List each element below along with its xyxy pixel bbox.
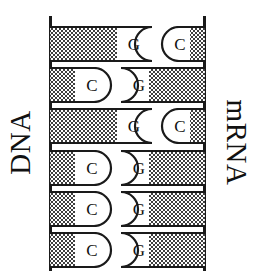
base-pair-row: GC bbox=[49, 108, 206, 144]
mrna-base-block: C bbox=[162, 109, 206, 143]
mrna-base-block: G bbox=[121, 68, 206, 102]
dna-base-letter: C bbox=[86, 241, 97, 260]
dna-base-block: C bbox=[49, 192, 111, 226]
dna-base-letter: C bbox=[86, 200, 97, 219]
dna-base-block: G bbox=[49, 109, 152, 143]
base-pair-row: CG bbox=[49, 150, 206, 186]
mrna-base-block: C bbox=[162, 27, 206, 61]
mrna-base-block: G bbox=[121, 233, 206, 267]
base-pair-row: CG bbox=[49, 191, 206, 227]
mrna-base-letter: C bbox=[174, 117, 185, 136]
mrna-base-block: G bbox=[121, 151, 206, 185]
mrna-base-letter: G bbox=[133, 76, 145, 95]
base-pair-row: CG bbox=[49, 232, 206, 268]
base-pairing-diagram: DNA mRNA GCCGGCCGCGCG bbox=[0, 0, 256, 280]
base-pair-row: GC bbox=[49, 26, 206, 62]
mrna-base-block: G bbox=[121, 192, 206, 226]
dna-base-block: C bbox=[49, 68, 111, 102]
mrna-base-letter: G bbox=[133, 241, 145, 260]
mrna-strand-label: mRNA bbox=[222, 93, 251, 193]
base-pair-row: CG bbox=[49, 67, 206, 103]
dna-base-letter: G bbox=[128, 35, 140, 54]
dna-base-block: G bbox=[49, 27, 152, 61]
dna-base-block: C bbox=[49, 233, 111, 267]
dna-base-letter: C bbox=[86, 76, 97, 95]
dna-strand-label: DNA bbox=[6, 93, 35, 193]
mrna-base-letter: G bbox=[133, 200, 145, 219]
dna-base-letter: C bbox=[86, 159, 97, 178]
mrna-base-letter: C bbox=[174, 35, 185, 54]
dna-base-letter: G bbox=[128, 117, 140, 136]
dna-base-block: C bbox=[49, 151, 111, 185]
mrna-base-letter: G bbox=[133, 159, 145, 178]
